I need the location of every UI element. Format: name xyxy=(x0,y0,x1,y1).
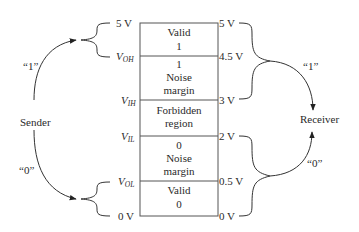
sender-label: Sender xyxy=(20,116,51,128)
region-text: Valid xyxy=(167,184,191,196)
left-voltage-labels: 5 V VOH VIH VIL VOL 0 V xyxy=(116,17,136,222)
logic-levels-diagram: Valid 1 1 Noise margin Forbidden region … xyxy=(0,0,359,232)
label-vol: VOL xyxy=(118,175,134,189)
sender-1-label: “1” xyxy=(23,60,38,72)
receiver-0-label: “0” xyxy=(307,157,322,169)
region-forbidden: Forbidden region xyxy=(156,104,202,129)
region-valid-0: Valid 0 xyxy=(167,184,191,210)
region-text: Valid xyxy=(167,26,191,38)
sender-0-label: “0” xyxy=(19,164,34,176)
region-text: margin xyxy=(164,165,195,177)
region-noise-margin-1: 1 Noise margin xyxy=(164,58,195,96)
brace-receiver-0 xyxy=(239,136,270,216)
receiver-1-label: “1” xyxy=(303,60,318,72)
label-right-4-5v: 4.5 V xyxy=(219,50,243,62)
brace-sender-1 xyxy=(81,23,110,57)
brace-sender-0 xyxy=(81,182,110,216)
label-right-0-5v: 0.5 V xyxy=(219,175,243,187)
label-right-5v: 5 V xyxy=(219,17,235,29)
region-valid-1: Valid 1 xyxy=(167,26,191,52)
label-vil: VIL xyxy=(121,130,134,144)
region-text: Noise xyxy=(166,152,192,164)
region-text: 0 xyxy=(176,198,182,210)
sender-arrow-1 xyxy=(34,40,76,100)
region-text: 0 xyxy=(176,139,182,151)
region-text: Forbidden xyxy=(156,104,202,116)
region-noise-margin-0: 0 Noise margin xyxy=(164,139,195,177)
right-voltage-labels: 5 V 4.5 V 3 V 2 V 0.5 V 0 V xyxy=(219,17,243,222)
brace-receiver-1 xyxy=(239,23,270,99)
label-0v: 0 V xyxy=(118,210,134,222)
receiver-arrow-0 xyxy=(270,132,312,176)
label-right-0v: 0 V xyxy=(219,210,235,222)
sender-arrow-0 xyxy=(34,130,76,199)
label-right-3v: 3 V xyxy=(219,94,235,106)
region-text: 1 xyxy=(176,58,182,70)
region-text: Noise xyxy=(166,71,192,83)
region-text: 1 xyxy=(176,40,182,52)
label-voh: VOH xyxy=(116,50,134,64)
label-5v: 5 V xyxy=(116,17,132,29)
region-text: region xyxy=(165,117,194,129)
region-text: margin xyxy=(164,84,195,96)
label-right-2v: 2 V xyxy=(219,130,235,142)
receiver-label: Receiver xyxy=(300,113,339,125)
label-vih: VIH xyxy=(121,94,136,108)
